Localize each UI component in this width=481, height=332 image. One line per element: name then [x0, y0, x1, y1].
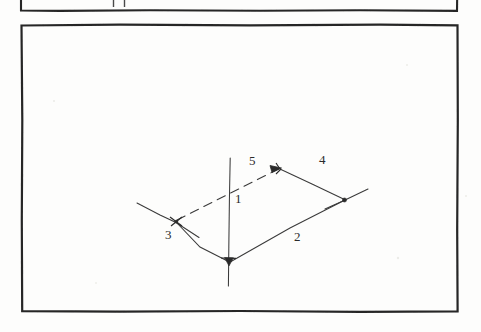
edge-label-3: 3 [165, 228, 172, 241]
edge-label-5: 5 [249, 154, 256, 167]
edge-label-1: 1 [235, 192, 242, 205]
edge-label-2: 2 [294, 230, 301, 243]
partial-frame-above [21, 0, 458, 11]
edge-1-vertical-axis [228, 158, 230, 286]
edge-2 [231, 201, 344, 262]
vertex-markers [170, 163, 347, 266]
edge-4 [281, 170, 345, 200]
marker-right-vertex [342, 198, 346, 202]
scanned-page: 5 4 1 2 3 [0, 0, 481, 332]
edge-label-4: 4 [319, 153, 326, 166]
diagram-ink [137, 158, 368, 286]
edge-5-dashed [177, 169, 279, 220]
scan-noise [53, 64, 467, 284]
figure-canvas [0, 0, 481, 332]
figure-border [22, 25, 458, 312]
